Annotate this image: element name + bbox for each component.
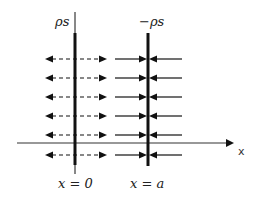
axis-arrow-icon — [226, 139, 234, 147]
x-axis-label: x — [238, 145, 245, 158]
right-plate-position-label: x = a — [130, 176, 164, 191]
left-plate-charge-label: ρs — [55, 14, 69, 29]
right-plate-charge-label: −ρs — [139, 14, 164, 29]
diagram-svg — [0, 0, 255, 197]
left-plate-position-label: x = 0 — [58, 176, 93, 191]
x-axis — [17, 139, 234, 147]
diagram-canvas: ρs −ρs x = 0 x = a x — [0, 0, 255, 197]
